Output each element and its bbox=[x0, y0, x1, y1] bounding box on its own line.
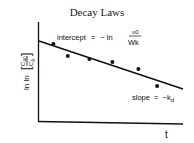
svg-text:CA: CA bbox=[28, 59, 36, 66]
svg-text:intercept = − ln: intercept = − ln bbox=[57, 33, 113, 42]
data-point bbox=[136, 67, 140, 71]
data-point bbox=[110, 60, 114, 64]
y-label-denominator-sub: A bbox=[31, 59, 36, 62]
data-points bbox=[51, 42, 159, 88]
svg-text:CA0: CA0 bbox=[20, 56, 28, 66]
data-point bbox=[155, 84, 159, 88]
svg-text:slope = −kd: slope = −kd bbox=[132, 93, 174, 103]
y-label-prefix: ln ln bbox=[22, 75, 31, 90]
fit-line bbox=[39, 41, 183, 89]
y-axis-label: ln ln [ CA0 CA ] bbox=[19, 53, 36, 90]
slope-annotation: slope = −kd bbox=[132, 93, 174, 103]
x-axis bbox=[38, 122, 183, 125]
intercept-numerator: υ0 bbox=[132, 29, 139, 35]
data-point bbox=[87, 57, 91, 61]
bracket-close: ] bbox=[19, 53, 33, 56]
data-point bbox=[51, 42, 55, 46]
data-point bbox=[66, 54, 70, 58]
x-axis-label: t bbox=[165, 129, 168, 140]
intercept-denominator: Wk bbox=[128, 38, 139, 47]
chart-plot: t ln ln [ CA0 CA ] intercept = − ln υ0 W… bbox=[0, 0, 194, 143]
intercept-annotation: intercept = − ln υ0 Wk bbox=[57, 29, 141, 47]
